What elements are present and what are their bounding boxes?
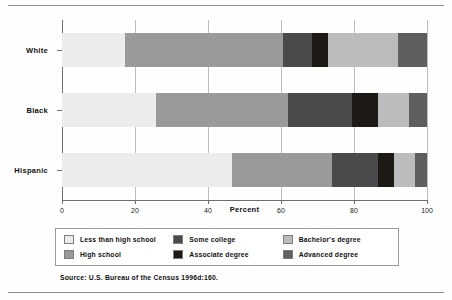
y-category-label: White: [26, 46, 48, 55]
legend-swatch: [64, 250, 74, 259]
x-tick: [208, 200, 209, 204]
top-rule: [8, 5, 444, 6]
bar-segment: [352, 93, 378, 127]
figure-container: 020406080100 WhiteBlackHispanic Percent …: [0, 0, 452, 300]
bar-segment: [125, 33, 283, 67]
bar-segment: [378, 93, 409, 127]
legend-item: Less than high school: [64, 235, 171, 244]
x-tick: [354, 200, 355, 204]
x-axis-title: Percent: [62, 205, 427, 214]
legend-label: Bachelor's degree: [299, 236, 361, 243]
bar-segment: [312, 33, 328, 67]
legend-swatch: [283, 250, 293, 259]
legend-item: Associate degree: [173, 250, 280, 259]
x-tick: [427, 200, 428, 204]
legend-label: Some college: [189, 236, 235, 243]
y-category-label: Black: [26, 106, 48, 115]
bottom-rule: [8, 292, 444, 293]
legend-label: Advanced degree: [299, 251, 359, 258]
source-note: Source: U.S. Bureau of the Census 1996d:…: [60, 274, 218, 281]
legend-label: High school: [80, 251, 121, 258]
legend-label: Associate degree: [189, 251, 249, 258]
bar-segment: [62, 33, 125, 67]
bar-segment: [62, 93, 156, 127]
bar-black: [62, 93, 427, 127]
bar-segment: [394, 153, 415, 187]
bar-segment: [328, 33, 397, 67]
x-axis-line: [62, 200, 427, 201]
bar-segment: [283, 33, 312, 67]
bar-segment: [232, 153, 332, 187]
bar-segment: [415, 153, 427, 187]
legend-item: Advanced degree: [283, 250, 390, 259]
plot-area: 020406080100 WhiteBlackHispanic: [62, 20, 427, 200]
legend-swatch: [173, 235, 183, 244]
x-tick: [135, 200, 136, 204]
bar-segment: [62, 153, 232, 187]
legend-swatch: [173, 250, 183, 259]
bar-white: [62, 33, 427, 67]
y-category-label: Hispanic: [14, 166, 48, 175]
legend-label: Less than high school: [80, 236, 156, 243]
legend-item: Bachelor's degree: [283, 235, 390, 244]
legend-swatch: [283, 235, 293, 244]
bar-segment: [156, 93, 288, 127]
bar-segment: [332, 153, 378, 187]
bar-segment: [378, 153, 394, 187]
legend-grid: Less than high schoolSome collegeBachelo…: [56, 229, 398, 265]
gridline: [427, 20, 428, 200]
bar-hispanic: [62, 153, 427, 187]
x-tick: [281, 200, 282, 204]
legend-item: Some college: [173, 235, 280, 244]
bar-segment: [288, 93, 352, 127]
x-tick: [62, 200, 63, 204]
legend-item: High school: [64, 250, 171, 259]
bar-segment: [398, 33, 427, 67]
legend: Less than high schoolSome collegeBachelo…: [55, 228, 399, 266]
bar-segment: [409, 93, 427, 127]
legend-swatch: [64, 235, 74, 244]
